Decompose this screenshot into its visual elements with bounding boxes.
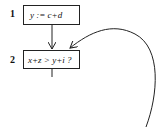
- node-1-number: 1: [10, 8, 15, 20]
- loop-back-edge: [70, 29, 155, 127]
- node-2-number: 2: [10, 54, 15, 66]
- node-2-text: x+z > y+i ?: [28, 55, 71, 65]
- node-2-box: x+z > y+i ?: [23, 50, 80, 69]
- node-1-box: y := c+d: [23, 5, 80, 25]
- node-1-text: y := c+d: [30, 10, 62, 20]
